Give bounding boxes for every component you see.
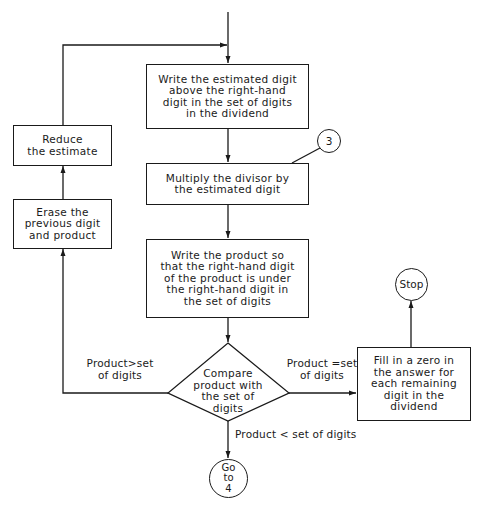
edge-label-equal: Product =set of digits [282,357,362,381]
write-estimated-digit-text: Write the estimated digit above the righ… [158,74,297,120]
connector-3-leader [292,148,320,163]
goto-4-circle: Go to 4 [209,459,248,498]
multiply-divisor-box: Multiply the divisor by the estimated di… [146,163,309,205]
connector-3-text: 3 [326,136,333,147]
fill-zero-box: Fill in a zero in the answer for each re… [357,347,471,421]
write-product-text: Write the product so that the right-hand… [160,250,294,308]
edge-label-less: Product < set of digits [235,428,395,440]
stop-text: Stop [400,279,424,290]
multiply-divisor-text: Multiply the divisor by the estimated di… [166,173,289,196]
write-product-box: Write the product so that the right-hand… [146,239,309,318]
erase-previous-text: Erase the previous digit and product [25,207,101,242]
stop-circle: Stop [395,268,428,301]
edge-label-greater: Product>set of digits [80,357,160,381]
write-estimated-digit-box: Write the estimated digit above the righ… [146,64,309,129]
reduce-estimate-text: Reduce the estimate [27,134,97,157]
connector-3-circle: 3 [317,129,341,153]
fill-zero-text: Fill in a zero in the answer for each re… [371,355,457,413]
erase-previous-box: Erase the previous digit and product [13,199,112,249]
compare-text: Compare product with the set of digits [183,368,273,414]
reduce-estimate-box: Reduce the estimate [13,125,112,166]
goto-4-text: Go to 4 [222,463,236,495]
